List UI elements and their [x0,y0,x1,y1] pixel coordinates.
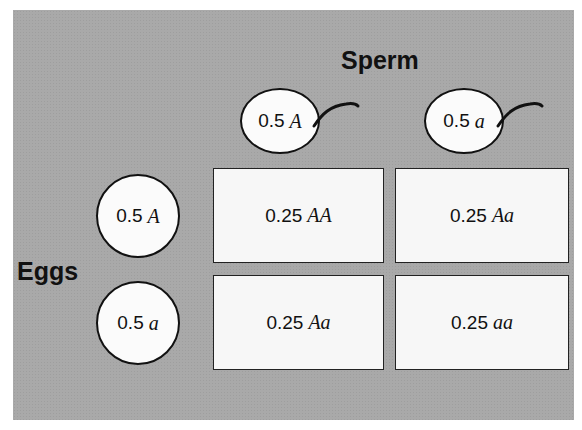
egg-a-icon: 0.5a [96,281,180,365]
sperm-A-icon: 0.5A [240,88,320,154]
cell-Aa-bottom: 0.25Aa [213,275,384,370]
cell-genotype: AA [307,204,331,227]
cell-freq: 0.25 [451,312,488,334]
eggs-label: Eggs [17,257,78,286]
cell-freq: 0.25 [450,205,487,227]
sperm-a-icon: 0.5a [424,88,504,154]
egg-A-freq: 0.5 [116,205,142,227]
cell-genotype: aa [493,311,513,334]
cell-AA: 0.25AA [213,168,384,263]
cell-freq: 0.25 [266,312,303,334]
cell-genotype: Aa [308,311,330,334]
sperm-label: Sperm [341,46,419,75]
egg-a-freq: 0.5 [117,312,143,334]
sperm-tail-icon [312,100,362,140]
sperm-A-allele: A [290,110,302,133]
egg-a-allele: a [149,312,159,335]
cell-genotype: Aa [492,204,514,227]
cell-Aa-top: 0.25Aa [395,168,569,263]
cell-aa: 0.25aa [395,275,569,370]
sperm-a-allele: a [475,110,485,133]
sperm-a-freq: 0.5 [443,110,469,132]
sperm-tail-icon [496,100,546,140]
egg-A-allele: A [148,205,160,228]
sperm-A-freq: 0.5 [258,110,284,132]
egg-A-icon: 0.5A [96,174,180,258]
cell-freq: 0.25 [265,205,302,227]
